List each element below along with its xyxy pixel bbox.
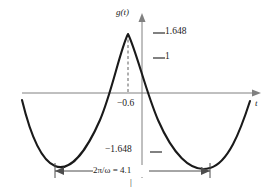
y-tick-label-upper: 1.648 <box>165 27 186 37</box>
period-label: 2π/ω = 4.1 <box>93 166 131 175</box>
x-axis-label: t <box>255 99 258 108</box>
plot-area <box>0 0 272 191</box>
y-tick-label-one: 1 <box>165 52 170 62</box>
period-annotation <box>55 163 210 178</box>
sinusoid-curve <box>22 34 250 169</box>
origin-value-label: −0.6 <box>117 99 134 109</box>
y-tick-label-lower: −1.648 <box>105 145 132 155</box>
stray-tick-mark: | <box>130 178 132 187</box>
y-axis-label: g(t) <box>116 8 129 17</box>
y-axis <box>139 13 146 178</box>
sinusoid-figure: g(t) t 1.648 1 −0.6 −1.648 2π/ω = 4.1 | <box>0 0 272 191</box>
